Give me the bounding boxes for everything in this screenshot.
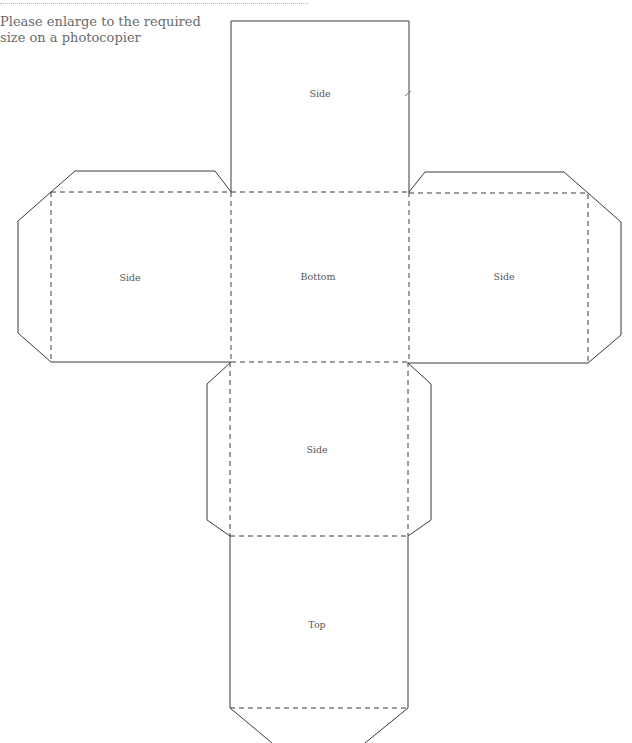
- label-bottom: Bottom: [300, 271, 335, 282]
- middle-side-left-flap: [207, 363, 230, 536]
- top-side-panel-outline: [231, 21, 409, 192]
- box-net-diagram: [0, 0, 632, 743]
- label-middle-side: Side: [306, 444, 327, 455]
- middle-side-right-flap: [408, 363, 431, 536]
- label-left-side: Side: [119, 272, 140, 283]
- label-top-side: Side: [309, 88, 330, 99]
- right-side-panel-outline: [409, 172, 621, 363]
- label-right-side: Side: [493, 271, 514, 282]
- label-top: Top: [308, 619, 325, 630]
- top-panel-outline: [230, 536, 408, 743]
- left-side-panel-outline: [18, 171, 231, 362]
- fold-line-left: [51, 192, 231, 362]
- pen-mark: [405, 91, 411, 96]
